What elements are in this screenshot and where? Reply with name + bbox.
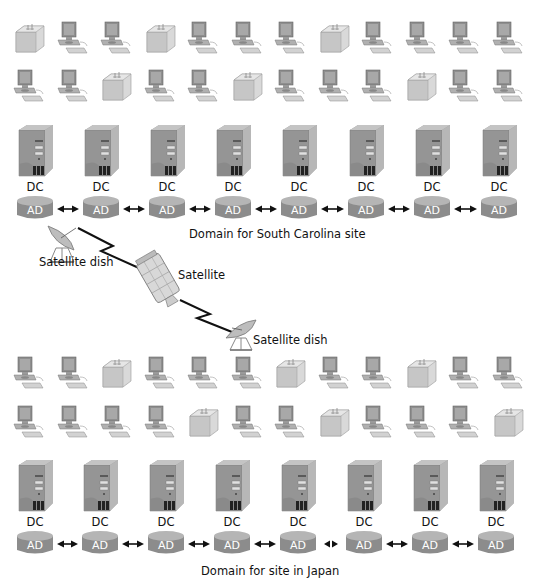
- workstation-icon: [447, 355, 483, 391]
- ad-database-icon: AD: [81, 530, 119, 556]
- lightning-link-bottom-icon: [180, 300, 232, 332]
- workstation-icon: [360, 404, 396, 440]
- replication-arrow-icon: [450, 539, 476, 549]
- workstation-icon: [491, 355, 527, 391]
- satellite-icon: [134, 249, 185, 310]
- replication-arrow-icon: [186, 539, 212, 549]
- ad-label: AD: [345, 539, 383, 552]
- workstation-icon: [447, 404, 483, 440]
- workstation-icon: [230, 404, 266, 440]
- satellite-label: Satellite: [178, 268, 225, 282]
- ad-database-icon: AD: [345, 530, 383, 556]
- server-icon: [146, 459, 186, 513]
- ad-database-icon: AD: [477, 530, 515, 556]
- dc-label: DC: [146, 516, 186, 528]
- ad-label: AD: [279, 539, 317, 552]
- ad-database-icon: AD: [147, 530, 185, 556]
- broken-link-arrow-icon: [318, 539, 344, 549]
- workstation-icon: [186, 355, 222, 391]
- workstation-icon: [273, 404, 309, 440]
- ad-database-icon: AD: [16, 530, 54, 556]
- server-icon: [344, 459, 384, 513]
- printer-icon: [491, 404, 527, 440]
- workstation-icon: [12, 355, 48, 391]
- workstation-icon: [12, 404, 48, 440]
- dc-label: DC: [344, 516, 384, 528]
- ad-database-icon: AD: [213, 530, 251, 556]
- printer-icon: [404, 355, 440, 391]
- ad-label: AD: [81, 539, 119, 552]
- satellite-dish-bottom-label: Satellite dish: [253, 333, 328, 347]
- replication-arrow-icon: [120, 539, 146, 549]
- workstation-icon: [404, 404, 440, 440]
- dc-label: DC: [15, 516, 55, 528]
- workstation-icon: [230, 355, 266, 391]
- ad-label: AD: [213, 539, 251, 552]
- printer-icon: [273, 355, 309, 391]
- replication-arrow-icon: [384, 539, 410, 549]
- printer-icon: [317, 404, 353, 440]
- workstation-icon: [360, 355, 396, 391]
- dc-label: DC: [212, 516, 252, 528]
- replication-arrow-icon: [252, 539, 278, 549]
- server-icon: [278, 459, 318, 513]
- server-icon: [212, 459, 252, 513]
- server-icon: [410, 459, 450, 513]
- workstation-icon: [317, 355, 353, 391]
- server-icon: [15, 459, 55, 513]
- ad-label: AD: [147, 539, 185, 552]
- dc-label: DC: [410, 516, 450, 528]
- satellite-dish-bottom-icon: [226, 320, 256, 350]
- ad-label: AD: [16, 539, 54, 552]
- dc-label: DC: [80, 516, 120, 528]
- dc-label: DC: [278, 516, 318, 528]
- printer-icon: [99, 355, 135, 391]
- server-icon: [476, 459, 516, 513]
- domain-label: Domain for site in Japan: [201, 564, 339, 578]
- ad-label: AD: [411, 539, 449, 552]
- workstation-icon: [99, 404, 135, 440]
- workstation-icon: [143, 404, 179, 440]
- printer-icon: [186, 404, 222, 440]
- replication-arrow-icon: [55, 539, 80, 549]
- ad-database-icon: AD: [279, 530, 317, 556]
- dc-label: DC: [476, 516, 516, 528]
- server-icon: [80, 459, 120, 513]
- ad-label: AD: [477, 539, 515, 552]
- ad-database-icon: AD: [411, 530, 449, 556]
- workstation-icon: [143, 355, 179, 391]
- workstation-icon: [56, 404, 92, 440]
- satellite-dish-top-label: Satellite dish: [39, 255, 114, 269]
- workstation-icon: [56, 355, 92, 391]
